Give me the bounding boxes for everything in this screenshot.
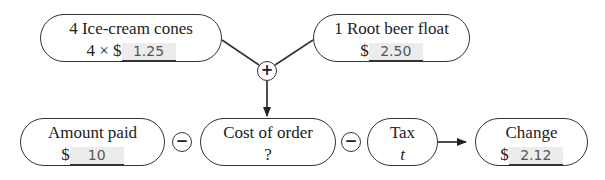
amount-paid-title: Amount paid — [21, 123, 164, 143]
tax-title: Tax — [368, 123, 437, 143]
ice-cream-cones-price-field[interactable]: 1.25 — [122, 43, 176, 61]
ice-cream-cones-prefix: 4 × $ — [86, 41, 121, 60]
change-title: Change — [476, 123, 587, 143]
change-field[interactable]: 2.12 — [509, 147, 563, 165]
ice-cream-cones-node: 4 Ice-cream cones 4 × $1.25 — [40, 14, 222, 62]
tax-value: t — [368, 145, 437, 165]
cost-of-order-title: Cost of order — [201, 123, 335, 143]
minus-operator-icon: − — [341, 132, 361, 152]
root-beer-float-node: 1 Root beer float $2.50 — [313, 14, 470, 62]
root-beer-float-title: 1 Root beer float — [314, 19, 469, 39]
plus-operator-icon: + — [257, 61, 277, 81]
amount-paid-prefix: $ — [61, 145, 70, 164]
root-beer-float-prefix: $ — [360, 41, 369, 60]
cost-of-order-node: Cost of order ? — [200, 118, 336, 166]
ice-cream-cones-title: 4 Ice-cream cones — [41, 19, 221, 39]
root-beer-float-price-field[interactable]: 2.50 — [369, 43, 423, 61]
change-node: Change $2.12 — [475, 118, 588, 166]
minus-operator-icon: − — [172, 132, 192, 152]
cost-of-order-value: ? — [201, 145, 335, 165]
tax-node: Tax t — [367, 118, 438, 166]
amount-paid-field[interactable]: 10 — [70, 147, 124, 165]
change-prefix: $ — [500, 145, 509, 164]
amount-paid-node: Amount paid $10 — [20, 118, 165, 166]
